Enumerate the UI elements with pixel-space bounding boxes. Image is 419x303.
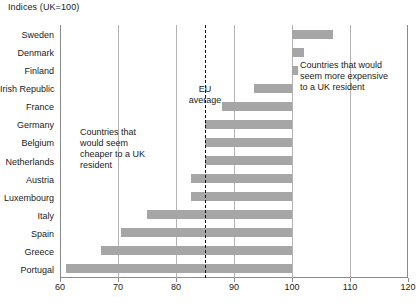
eu-average-reference-line bbox=[205, 25, 206, 278]
x-tick-label-70: 70 bbox=[113, 282, 123, 292]
footnote-text bbox=[6, 295, 416, 303]
bar-netherlands bbox=[205, 156, 292, 165]
bar-italy bbox=[147, 210, 292, 219]
bar-irish-republic bbox=[254, 84, 292, 93]
bar-germany bbox=[205, 120, 292, 129]
category-label-austria: Austria bbox=[0, 175, 54, 185]
bar-finland bbox=[292, 66, 298, 75]
expensive-annotation-line-3: to a UK resident bbox=[300, 82, 404, 93]
category-label-italy: Italy bbox=[0, 211, 54, 221]
category-label-netherlands: Netherlands bbox=[0, 157, 54, 167]
category-label-portugal: Portugal bbox=[0, 265, 54, 275]
bar-belgium bbox=[205, 138, 292, 147]
category-label-germany: Germany bbox=[0, 120, 54, 130]
cheaper-annotation: Countries thatwould seemcheaper to a UKr… bbox=[80, 127, 154, 171]
gridline-90 bbox=[234, 25, 235, 278]
category-label-irish-republic: Irish Republic bbox=[0, 84, 54, 94]
category-label-france: France bbox=[0, 102, 54, 112]
expensive-annotation: Countries that wouldseem more expensivet… bbox=[300, 60, 404, 93]
cheaper-annotation-line-4: resident bbox=[80, 160, 154, 171]
x-tick-label-120: 120 bbox=[400, 282, 415, 292]
eu-average-annotation-line-1: EU bbox=[183, 84, 227, 95]
bar-france bbox=[222, 102, 292, 111]
eu-average-annotation: EUaverage bbox=[183, 84, 227, 106]
expensive-annotation-line-2: seem more expensive bbox=[300, 71, 404, 82]
gridline-80 bbox=[176, 25, 177, 278]
x-tick-label-80: 80 bbox=[171, 282, 181, 292]
bar-spain bbox=[121, 228, 292, 237]
category-label-finland: Finland bbox=[0, 66, 54, 76]
cheaper-annotation-line-2: would seem bbox=[80, 138, 154, 149]
category-label-belgium: Belgium bbox=[0, 138, 54, 148]
category-label-sweden: Sweden bbox=[0, 30, 54, 40]
bar-portugal bbox=[66, 264, 292, 273]
expensive-annotation-line-1: Countries that would bbox=[300, 60, 404, 71]
category-label-denmark: Denmark bbox=[0, 48, 54, 58]
chart-title: Indices (UK=100) bbox=[8, 2, 79, 13]
bar-greece bbox=[101, 246, 292, 255]
price-level-indices-chart: Indices (UK=100) 60708090100110120 Swede… bbox=[0, 0, 419, 303]
category-label-spain: Spain bbox=[0, 229, 54, 239]
x-tick-label-60: 60 bbox=[55, 282, 65, 292]
bar-denmark bbox=[292, 48, 304, 57]
bar-sweden bbox=[292, 30, 333, 39]
eu-average-annotation-line-2: average bbox=[183, 95, 227, 106]
category-label-luxembourg: Luxembourg bbox=[0, 193, 54, 203]
cheaper-annotation-line-3: cheaper to a UK bbox=[80, 149, 154, 160]
x-tick-label-90: 90 bbox=[229, 282, 239, 292]
x-tick-label-100: 100 bbox=[284, 282, 299, 292]
gridline-100 bbox=[292, 25, 293, 278]
axis-line-left bbox=[60, 25, 61, 278]
x-tick-label-110: 110 bbox=[343, 282, 357, 292]
axis-line-right bbox=[407, 25, 408, 278]
cheaper-annotation-line-1: Countries that bbox=[80, 127, 154, 138]
category-label-greece: Greece bbox=[0, 247, 54, 257]
